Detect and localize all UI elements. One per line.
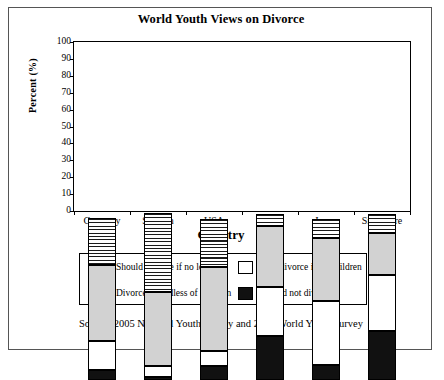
bar-segment[interactable] [144,292,172,366]
x-tick-mark [410,211,411,215]
bar-segment[interactable] [200,219,228,266]
y-tick-mark [70,93,74,94]
bar-segment[interactable] [256,287,284,336]
x-tick-mark [354,211,355,215]
x-tick-mark [298,211,299,215]
y-tick-mark [70,143,74,144]
y-tick-mark [70,127,74,128]
bar-segment[interactable] [312,365,340,380]
bar-segment[interactable] [368,214,396,233]
bar-group: Korea [256,42,284,211]
x-tick-mark [242,211,243,215]
bar-group: Sweden [144,42,172,211]
y-tick-mark [70,160,74,161]
bar-segment[interactable] [312,301,340,365]
plot-wrapper: 0102030405060708090100GermanySwedenUSAKo… [65,33,409,218]
y-tick-mark [70,76,74,77]
plot-area: 0102030405060708090100GermanySwedenUSAKo… [73,41,411,212]
y-tick-mark [70,110,74,111]
y-tick-mark [70,177,74,178]
bar-segment[interactable] [200,351,228,366]
bar-group: USA [200,42,228,211]
y-tick-mark [70,194,74,195]
y-tick-mark [70,42,74,43]
bar-segment[interactable] [144,213,172,292]
bar-segment[interactable] [368,233,396,275]
bar-group: Japan [312,42,340,211]
y-axis-label: Percent (%) [27,58,41,113]
x-tick-mark [74,211,75,215]
bar-segment[interactable] [368,331,396,380]
bar-segment[interactable] [312,219,340,238]
bar-segment[interactable] [256,336,284,380]
bar-segment[interactable] [88,218,116,265]
bar-segment[interactable] [144,377,172,380]
legend-swatch-icon [238,287,253,300]
bar-segment[interactable] [256,214,284,226]
legend-swatch-icon [238,261,253,274]
x-tick-mark [186,211,187,215]
bar-segment[interactable] [312,238,340,301]
y-tick-label: 100 [57,37,71,47]
bar-group: Singapore [368,42,396,211]
bar-segment[interactable] [368,275,396,331]
figure-frame: World Youth Views on Divorce Percent (%)… [8,7,432,350]
bar-segment[interactable] [88,265,116,341]
bar-group: Germany [88,42,116,211]
page-title: World Youth Views on Divorce [9,12,433,27]
bar-segment[interactable] [88,341,116,370]
bar-segment[interactable] [144,366,172,376]
x-tick-mark [130,211,131,215]
bar-segment[interactable] [200,267,228,352]
y-tick-mark [70,59,74,60]
bar-segment[interactable] [88,370,116,380]
bar-segment[interactable] [256,226,284,287]
bar-segment[interactable] [200,366,228,380]
